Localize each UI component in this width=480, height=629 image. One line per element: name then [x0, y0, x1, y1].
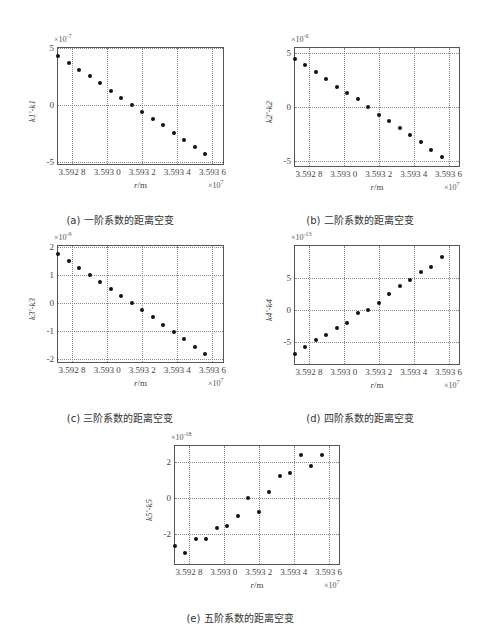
- data-point: [293, 352, 297, 356]
- data-point: [151, 117, 155, 121]
- x-tick-label: 3.593 6: [435, 367, 462, 377]
- data-point: [356, 97, 360, 101]
- data-point: [303, 63, 307, 67]
- data-point: [98, 280, 102, 284]
- data-point: [429, 265, 433, 269]
- x-axis-unit: /m: [374, 182, 384, 192]
- data-point: [377, 113, 381, 117]
- data-point: [203, 152, 207, 156]
- x-axis-label: r/m: [370, 380, 383, 390]
- data-point: [98, 81, 102, 85]
- data-point: [419, 140, 423, 144]
- y-tick-label: -2: [38, 354, 54, 364]
- x-tick-label: 3.593 6: [199, 167, 226, 177]
- plot-area: [294, 47, 460, 167]
- data-point: [193, 345, 197, 349]
- x-tick-label: 3.593 0: [330, 367, 357, 377]
- y-tick-label: 0: [155, 493, 171, 503]
- grid-line-horizontal: [58, 162, 223, 163]
- data-point: [88, 74, 92, 78]
- x-tick-label: 3.593 2: [129, 365, 156, 375]
- data-point: [324, 333, 328, 337]
- plot-area: [174, 445, 340, 565]
- x-tick-label: 3.593 0: [94, 365, 121, 375]
- x-axis-exponent: 7: [221, 179, 224, 185]
- grid-line-vertical: [259, 446, 260, 564]
- grid-line-vertical: [294, 446, 295, 564]
- data-point: [225, 524, 229, 528]
- plot-area: [294, 245, 460, 365]
- y-axis-multiplier: ×10-6: [291, 33, 309, 44]
- x-axis-unit: /m: [138, 378, 148, 388]
- x-axis-label: r/m: [134, 180, 147, 190]
- x-tick-label: 3.593 4: [400, 169, 427, 179]
- data-point: [387, 292, 391, 296]
- data-point: [236, 514, 240, 518]
- x-axis-multiplier: ×107: [208, 377, 224, 388]
- x-tick-label: 3.593 4: [164, 167, 191, 177]
- x-tick-label: 3.592 8: [59, 167, 86, 177]
- grid-line-vertical: [224, 446, 225, 564]
- grid-line-vertical: [212, 48, 213, 164]
- y-tick-label: 2: [38, 242, 54, 252]
- data-point: [140, 110, 144, 114]
- y-axis-exponent: -13: [304, 231, 312, 237]
- y-tick-label: -5: [275, 337, 291, 347]
- data-point: [366, 308, 370, 312]
- data-point: [366, 105, 370, 109]
- grid-line-horizontal: [58, 105, 223, 106]
- data-point: [257, 510, 261, 514]
- data-point: [408, 278, 412, 282]
- data-point: [119, 96, 123, 100]
- x-axis-multiplier: ×107: [208, 179, 224, 190]
- grid-line-horizontal: [175, 534, 339, 535]
- x-axis-exponent: 7: [221, 377, 224, 383]
- plot-area: [57, 47, 224, 165]
- y-axis-label: k3'-k3: [27, 298, 37, 320]
- data-point: [119, 294, 123, 298]
- x-axis-label: r/m: [370, 182, 383, 192]
- data-point: [161, 123, 165, 127]
- data-point: [194, 537, 198, 541]
- figure-caption: (b) 二阶系数的距离空变: [306, 212, 413, 227]
- y-axis-multiplier: ×10-18: [171, 431, 192, 442]
- figure-caption: (e) 五阶系数的距离空变: [186, 610, 293, 625]
- x-axis-label: r/m: [134, 378, 147, 388]
- figure-caption: (a) 一阶系数的距离空变: [66, 212, 173, 227]
- data-point: [182, 138, 186, 142]
- x-axis-exponent: 7: [457, 379, 460, 385]
- y-axis-exponent: -9: [67, 231, 72, 237]
- y-axis-exponent: -18: [184, 431, 192, 437]
- data-point: [203, 352, 207, 356]
- x-axis-exponent: 7: [337, 579, 340, 585]
- grid-line-vertical: [177, 48, 178, 164]
- y-tick-label: 5: [275, 273, 291, 283]
- x-tick-label: 3.593 4: [164, 365, 191, 375]
- data-point: [151, 315, 155, 319]
- data-point: [303, 345, 307, 349]
- x-axis-multiplier: ×107: [444, 379, 460, 390]
- x-tick-label: 3.592 8: [59, 365, 86, 375]
- data-point: [309, 464, 313, 468]
- grid-line-horizontal: [295, 342, 459, 343]
- grid-line-horizontal: [58, 247, 223, 248]
- data-point: [398, 126, 402, 130]
- grid-line-vertical: [329, 446, 330, 564]
- x-axis-unit: /m: [374, 380, 384, 390]
- data-point: [324, 77, 328, 81]
- data-point: [387, 119, 391, 123]
- grid-line-horizontal: [58, 48, 223, 49]
- data-point: [109, 89, 113, 93]
- y-tick-label: 1: [38, 270, 54, 280]
- y-tick-label: -5: [38, 157, 54, 167]
- x-tick-label: 3.593 4: [400, 367, 427, 377]
- data-point: [246, 496, 250, 500]
- data-point: [109, 287, 113, 291]
- data-point: [161, 323, 165, 327]
- data-point: [335, 85, 339, 89]
- data-point: [182, 337, 186, 341]
- data-point: [408, 133, 412, 137]
- data-point: [335, 326, 339, 330]
- grid-line-horizontal: [58, 359, 223, 360]
- data-point: [356, 311, 360, 315]
